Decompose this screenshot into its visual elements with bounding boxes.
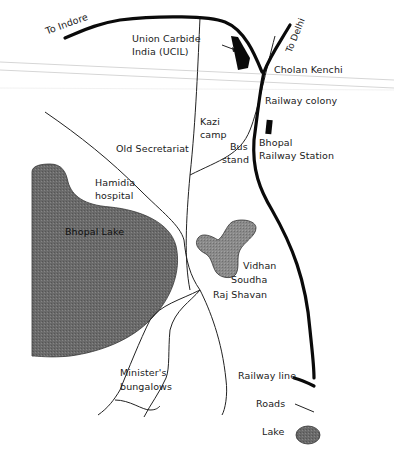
label-cholan-kenchi: Cholan Kenchi — [274, 64, 343, 76]
legend-lake-symbol — [296, 426, 320, 444]
label-vidhan-line1: Vidhan — [243, 260, 276, 272]
label-raj-bhavan: Raj Shavan — [213, 289, 267, 301]
label-kazi-line1: Kazi — [200, 116, 220, 128]
label-ministers-line1: Minister's — [120, 367, 166, 379]
railway-station-icon — [265, 120, 272, 135]
label-station-line1: Bhopal — [259, 137, 292, 149]
label-ucil-line2: India (UCIL) — [132, 46, 189, 58]
label-ministers-line2: bungalows — [120, 381, 172, 393]
legend-road-symbol — [295, 404, 314, 412]
label-hamidia-line2: hospital — [95, 190, 133, 202]
legend-lake-label: Lake — [262, 426, 285, 438]
label-bhopal-lake: Bhopal Lake — [65, 226, 124, 238]
bhopal-map: To Indore To Delhi Union Carbide India (… — [0, 0, 394, 458]
label-station-line2: Railway Station — [259, 150, 334, 162]
label-bus-line2: stand — [222, 154, 249, 166]
legend-railway-label: Railway line — [238, 370, 296, 382]
label-hamidia-line1: Hamidia — [95, 177, 135, 189]
label-railway-colony: Railway colony — [265, 95, 337, 107]
label-kazi-line2: camp — [200, 129, 227, 141]
legend-roads-label: Roads — [256, 398, 285, 410]
label-old-secretariat: Old Secretariat — [116, 143, 189, 155]
label-bus-line1: Bus — [230, 141, 248, 153]
label-ucil-line1: Union Carbide — [132, 33, 201, 45]
label-vidhan-line2: Soudha — [231, 274, 267, 286]
